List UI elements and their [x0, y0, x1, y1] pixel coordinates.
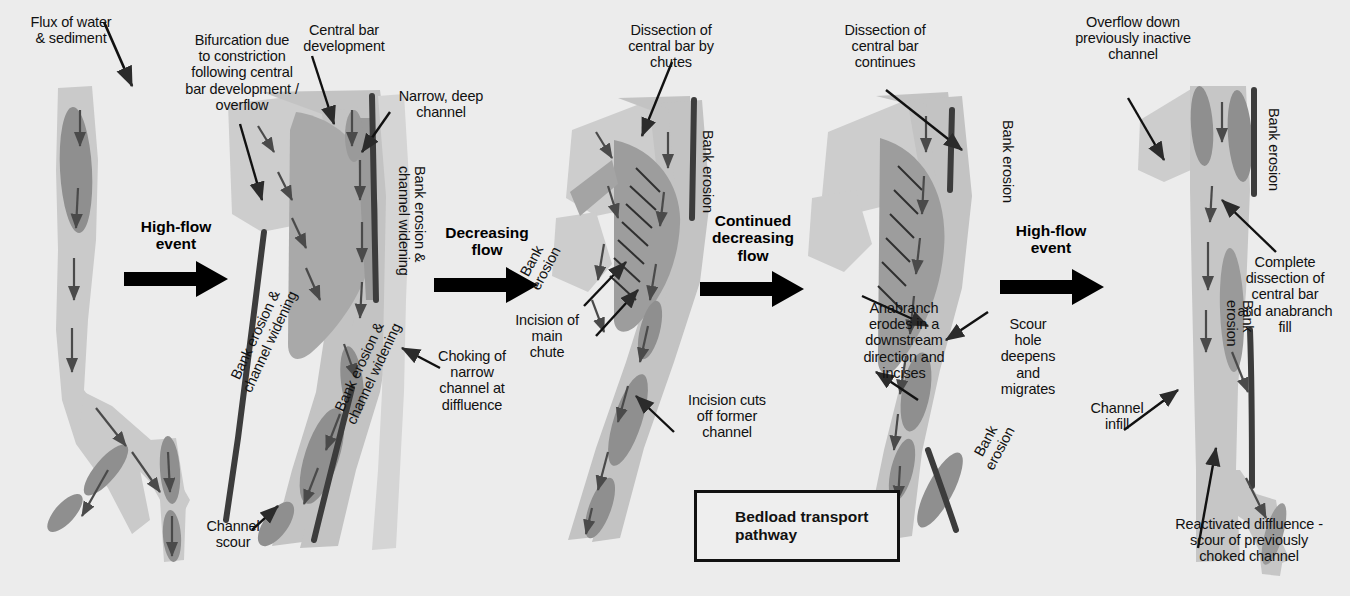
transition-label-continued-decreasing-flow: Continued decreasing flow	[692, 212, 814, 264]
transition-label-high-flow-event-2: High-flow event	[996, 222, 1106, 257]
label-narrow-deep-channel: Narrow, deep channel	[382, 88, 500, 120]
label-flux-of-water: Flux of water & sediment	[6, 14, 136, 46]
label-incision-of-main-chute: Incision of main chute	[500, 312, 594, 361]
label-bank-erosion-p5-upper: Bank erosion	[1266, 108, 1282, 218]
panel-3-artwork	[552, 62, 710, 542]
label-bank-erosion-p5-lower: Bank erosion	[1224, 300, 1256, 380]
label-channel-scour: Channel scour	[190, 518, 276, 550]
label-bank-erosion-p4-right: Bank erosion	[1000, 120, 1016, 230]
label-central-bar-development: Central bar development	[282, 22, 406, 54]
legend-box: Bedload transport pathway	[694, 490, 900, 562]
label-channel-infill: Channel infill	[1074, 400, 1160, 432]
label-incision-cuts-off-former-channel: Incision cuts off former channel	[672, 392, 782, 441]
label-overflow-down-previously-inactive-channel: Overflow down previously inactive channe…	[1056, 14, 1210, 63]
legend-label: Bedload transport pathway	[735, 508, 868, 544]
transition-label-high-flow-event-1: High-flow event	[118, 218, 234, 253]
label-reactivated-diffluence: Reactivated diffluence - scour of previo…	[1156, 516, 1342, 565]
label-dissection-of-central-bar-continues: Dissection of central bar continues	[820, 22, 950, 71]
label-dissection-of-central-bar-by-chutes: Dissection of central bar by chutes	[600, 22, 742, 71]
diagram-canvas: Flux of water & sediment High-flow event…	[0, 0, 1350, 596]
label-scour-hole-deepens-and-migrates: Scour hole deepens and migrates	[992, 316, 1064, 397]
label-anabranch-erodes-downstream: Anabranch erodes in a downstream directi…	[844, 300, 964, 381]
